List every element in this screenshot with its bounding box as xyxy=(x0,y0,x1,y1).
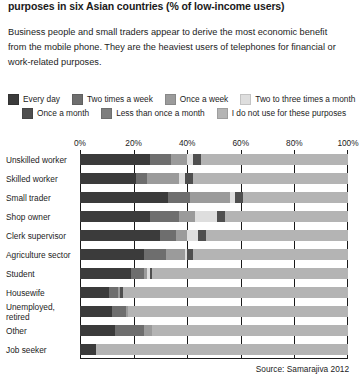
bar-segment[interactable] xyxy=(160,230,176,241)
legend-row-1: Every dayTwo times a weekOnce a weekTwo … xyxy=(8,92,356,106)
bar-segment[interactable] xyxy=(80,249,144,260)
legend-item-label: Once a month xyxy=(37,109,89,118)
legend-item-label: Two times a week xyxy=(87,95,153,104)
bar-segment[interactable] xyxy=(198,230,206,241)
bar-segment[interactable] xyxy=(150,211,179,222)
bar-segment[interactable] xyxy=(225,211,348,222)
x-tick-label: 60% xyxy=(232,138,249,148)
bar-segment[interactable] xyxy=(217,211,225,222)
bar-segment[interactable] xyxy=(179,211,195,222)
bar-segment[interactable] xyxy=(80,344,96,355)
x-tick-label: 0% xyxy=(74,138,86,148)
category-label: Small trader xyxy=(0,188,78,207)
legend-swatch-icon xyxy=(217,108,228,119)
category-label: Unemployed, retired xyxy=(0,302,78,321)
legend-item[interactable]: Two to three times a month xyxy=(240,94,355,105)
legend-item[interactable]: I do not use for these purposes xyxy=(217,108,346,119)
bar-segment[interactable] xyxy=(201,154,348,165)
legend-swatch-icon xyxy=(240,94,251,105)
category-label: Unskilled worker xyxy=(0,150,78,169)
category-label: Skilled worker xyxy=(0,169,78,188)
x-tick-label: 20% xyxy=(125,138,142,148)
bar-segment[interactable] xyxy=(80,230,160,241)
bar-segment[interactable] xyxy=(235,192,243,203)
legend-swatch-icon xyxy=(22,108,33,119)
category-label: Student xyxy=(0,264,78,283)
bar-segment[interactable] xyxy=(115,325,144,336)
bar-segment[interactable] xyxy=(193,249,348,260)
legend-item[interactable]: Every day xyxy=(8,94,60,105)
legend-item[interactable]: Once a week xyxy=(165,94,228,105)
bar-segment[interactable] xyxy=(168,192,189,203)
bar-segment[interactable] xyxy=(150,154,171,165)
figure-root: purposes in six Asian countries (% of lo… xyxy=(0,0,359,384)
legend-item-label: Once a week xyxy=(180,95,228,104)
stacked-bar-chart: 0%20%40%60%80%100% Unskilled workerSkill… xyxy=(0,138,359,360)
bar-segment[interactable] xyxy=(193,173,348,184)
bar-segment[interactable] xyxy=(147,173,179,184)
figure-intro-text: Business people and small traders appear… xyxy=(8,25,348,70)
bar-segment[interactable] xyxy=(193,154,201,165)
bar-row xyxy=(80,249,348,260)
bar-segment[interactable] xyxy=(112,306,125,317)
bar-segment[interactable] xyxy=(144,325,152,336)
bar-segment[interactable] xyxy=(206,230,348,241)
bar-segment[interactable] xyxy=(96,344,348,355)
bar-segment[interactable] xyxy=(80,173,136,184)
bar-row xyxy=(80,287,348,298)
bar-segment[interactable] xyxy=(123,287,348,298)
chart-legend: Every dayTwo times a weekOnce a weekTwo … xyxy=(8,92,356,120)
bar-segment[interactable] xyxy=(131,268,144,279)
bar-row xyxy=(80,230,348,241)
bar-segment[interactable] xyxy=(80,306,112,317)
bar-segment[interactable] xyxy=(243,192,348,203)
legend-item-label: Two to three times a month xyxy=(255,95,355,104)
bar-segment[interactable] xyxy=(144,249,165,260)
legend-item-label: Every day xyxy=(23,95,60,104)
source-credit: Source: Samarajiva 2012 xyxy=(256,364,349,374)
x-tick-label: 80% xyxy=(286,138,303,148)
bar-segment[interactable] xyxy=(128,306,348,317)
category-label: Clerk supervisor xyxy=(0,226,78,245)
plot-area xyxy=(80,150,348,359)
bar-segment[interactable] xyxy=(80,287,109,298)
bar-segment[interactable] xyxy=(80,325,115,336)
bar-segment[interactable] xyxy=(136,173,147,184)
bar-segment[interactable] xyxy=(166,249,185,260)
bar-segment[interactable] xyxy=(176,230,187,241)
bar-segment[interactable] xyxy=(80,192,168,203)
legend-swatch-icon xyxy=(165,94,176,105)
bar-segment[interactable] xyxy=(190,192,230,203)
bar-segment[interactable] xyxy=(152,268,348,279)
bar-segment[interactable] xyxy=(187,230,198,241)
legend-item[interactable]: Less than once a month xyxy=(101,108,205,119)
category-label: Other xyxy=(0,321,78,340)
x-tick-label: 100% xyxy=(337,138,358,148)
bar-segment[interactable] xyxy=(171,154,187,165)
legend-item[interactable]: Once a month xyxy=(22,108,89,119)
bar-row xyxy=(80,211,348,222)
bar-segment[interactable] xyxy=(185,173,193,184)
bar-row xyxy=(80,325,348,336)
plot-bottom-border xyxy=(80,358,348,359)
bar-row xyxy=(80,306,348,317)
legend-item-label: I do not use for these purposes xyxy=(232,109,346,118)
bar-segment[interactable] xyxy=(80,211,150,222)
category-label: Agriculture sector xyxy=(0,245,78,264)
legend-item[interactable]: Two times a week xyxy=(72,94,153,105)
bar-segment[interactable] xyxy=(80,154,150,165)
y-axis-category-labels: Unskilled workerSkilled workerSmall trad… xyxy=(0,150,78,359)
category-label: Housewife xyxy=(0,283,78,302)
bar-segment[interactable] xyxy=(195,211,216,222)
bar-segment[interactable] xyxy=(109,287,117,298)
x-axis-tick-labels: 0%20%40%60%80%100% xyxy=(80,138,348,150)
bar-segment[interactable] xyxy=(80,268,131,279)
bar-row xyxy=(80,192,348,203)
bar-segment[interactable] xyxy=(152,325,348,336)
figure-headline: purposes in six Asian countries (% of lo… xyxy=(8,0,352,13)
bar-row xyxy=(80,154,348,165)
category-label: Shop owner xyxy=(0,207,78,226)
category-label: Job seeker xyxy=(0,340,78,359)
x-tick-label: 40% xyxy=(179,138,196,148)
legend-swatch-icon xyxy=(101,108,112,119)
